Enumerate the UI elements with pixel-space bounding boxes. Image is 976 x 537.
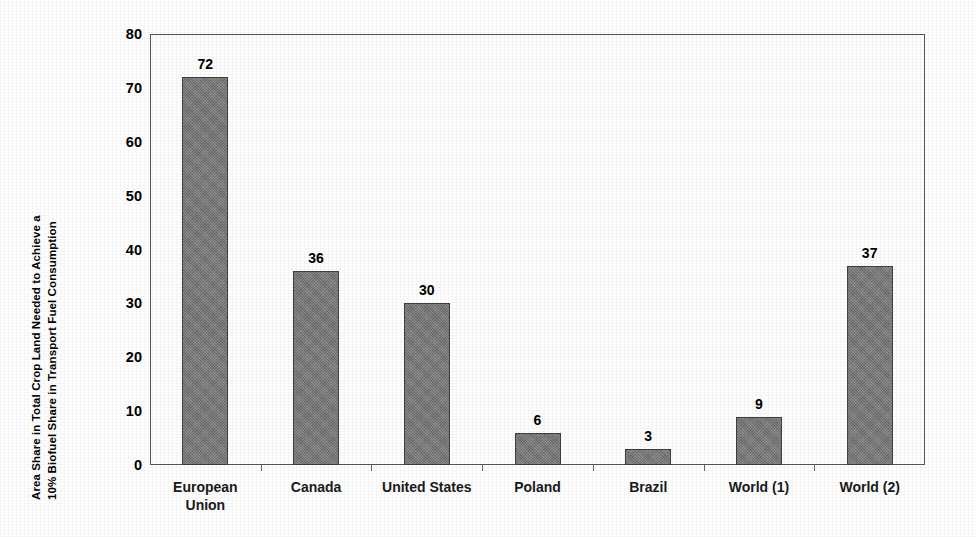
plot-area: [150, 34, 925, 465]
y-axis-title-line-1: Area Share in Total Crop Land Needed to …: [30, 20, 42, 500]
y-axis-tick-label: 40: [102, 242, 142, 258]
y-axis-tick-label: 0: [102, 457, 142, 473]
bar: [515, 433, 561, 465]
y-axis-tick-label: 70: [102, 80, 142, 96]
y-axis-title: Area Share in Total Crop Land Needed to …: [28, 0, 84, 500]
y-axis-tick-label: 80: [102, 26, 142, 42]
bar-value-label: 36: [276, 250, 356, 266]
x-axis-tick-mark: [704, 465, 705, 471]
bar-value-label: 3: [608, 428, 688, 444]
y-axis-title-line-2: 10% Biofuel Share in Transport Fuel Cons…: [46, 20, 58, 500]
bar: [182, 77, 228, 465]
y-axis-tick-label: 10: [102, 403, 142, 419]
bar-value-label: 72: [165, 56, 245, 72]
x-axis-tick-mark: [814, 465, 815, 471]
y-axis-tick-labels: 01020304050607080: [96, 0, 142, 537]
bar-value-label: 37: [830, 245, 910, 261]
y-axis-tick-label: 20: [102, 349, 142, 365]
bar-chart: Area Share in Total Crop Land Needed to …: [0, 0, 976, 537]
bar: [625, 449, 671, 465]
x-axis-tick-mark: [482, 465, 483, 471]
bar: [404, 303, 450, 465]
bar-value-label: 30: [387, 282, 467, 298]
x-axis-tick-mark: [261, 465, 262, 471]
bar: [847, 266, 893, 465]
bar: [736, 417, 782, 465]
bar-value-label: 6: [498, 412, 578, 428]
bar-value-label: 9: [719, 396, 799, 412]
x-axis-category-label: World (2): [800, 478, 940, 496]
x-axis-tick-mark: [371, 465, 372, 471]
bar: [293, 271, 339, 465]
y-axis-tick-label: 60: [102, 134, 142, 150]
x-axis-tick-mark: [593, 465, 594, 471]
y-axis-tick-label: 30: [102, 295, 142, 311]
y-axis-tick-label: 50: [102, 188, 142, 204]
